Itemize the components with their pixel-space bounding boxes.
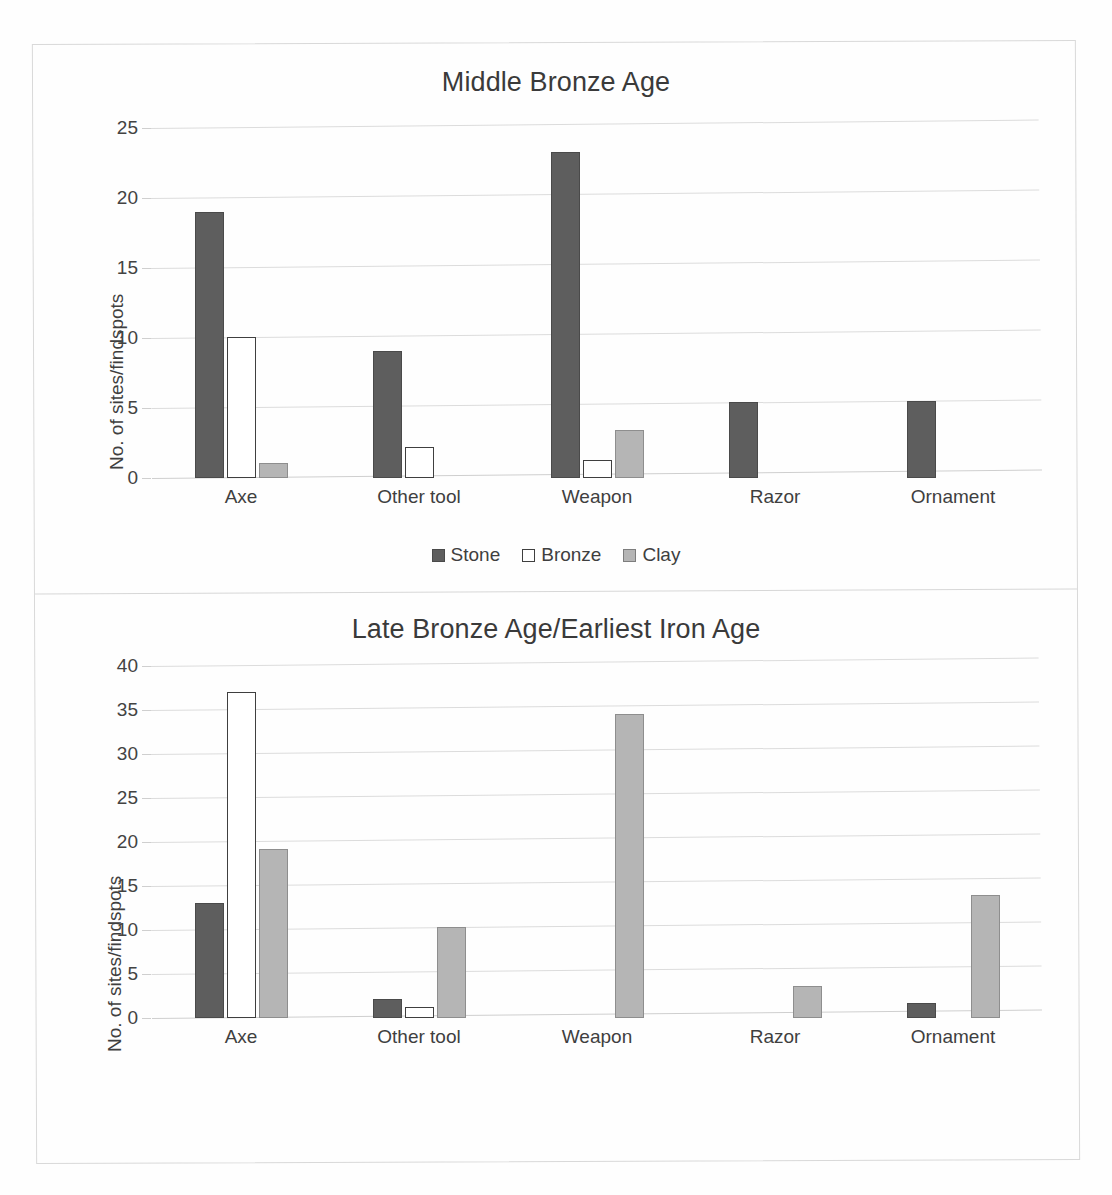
- bar-stone: [729, 402, 758, 478]
- y-axis-tick-mark: [142, 128, 151, 129]
- bar-stone: [195, 212, 224, 478]
- y-axis-tick-label: 35: [117, 699, 138, 721]
- bar-group: [330, 128, 508, 478]
- bar-bronze: [227, 692, 256, 1018]
- bar-clay: [793, 986, 822, 1018]
- y-axis-tick-mark: [142, 268, 151, 269]
- bars-layer: [152, 666, 1042, 1018]
- y-axis-tick-mark: [142, 710, 151, 711]
- y-axis-tick-label: 30: [117, 743, 138, 765]
- x-axis-label: Ornament: [864, 486, 1042, 508]
- y-axis-tick-label: 20: [117, 187, 138, 209]
- y-axis-tick-label: 20: [117, 831, 138, 853]
- legend-label: Clay: [642, 544, 680, 566]
- y-axis-tick-label: 5: [127, 397, 138, 419]
- y-axis-tick-label: 15: [117, 257, 138, 279]
- bar-group: [686, 666, 864, 1018]
- y-axis-tick-mark: [142, 930, 151, 931]
- y-axis-tick-label: 0: [127, 1007, 138, 1029]
- x-axis-labels: AxeOther toolWeaponRazorOrnament: [152, 1026, 1042, 1048]
- y-axis-tick-label: 40: [117, 655, 138, 677]
- x-axis-label: Ornament: [864, 1026, 1042, 1048]
- bar-stone: [373, 999, 402, 1018]
- y-axis-tick-mark: [142, 198, 151, 199]
- y-axis-tick-label: 10: [117, 327, 138, 349]
- y-axis-tick-label: 10: [117, 919, 138, 941]
- plot-area: 0510152025303540: [152, 666, 1042, 1018]
- y-axis-tick-mark: [142, 798, 151, 799]
- bar-clay: [615, 430, 644, 478]
- bar-clay: [437, 927, 466, 1018]
- bar-clay: [259, 463, 288, 478]
- y-axis-title: No. of sites/findspots: [104, 876, 126, 1052]
- x-axis-label: Weapon: [508, 1026, 686, 1048]
- chart-legend: StoneBronzeClay: [34, 544, 1078, 566]
- legend-item-bronze: Bronze: [522, 544, 601, 566]
- bar-clay: [615, 714, 644, 1018]
- bar-group: [508, 666, 686, 1018]
- bar-bronze: [405, 447, 434, 478]
- x-axis-label: Axe: [152, 486, 330, 508]
- x-axis-label: Razor: [686, 486, 864, 508]
- bar-group: [330, 666, 508, 1018]
- bar-clay: [259, 849, 288, 1018]
- x-axis-label: Other tool: [330, 1026, 508, 1048]
- bar-group: [864, 666, 1042, 1018]
- bar-group: [686, 128, 864, 478]
- bar-clay: [971, 895, 1000, 1018]
- y-axis-tick-label: 25: [117, 787, 138, 809]
- bars-layer: [152, 128, 1042, 478]
- chart-title: Late Bronze Age/Earliest Iron Age: [34, 614, 1078, 645]
- y-axis-tick-label: 25: [117, 117, 138, 139]
- bar-group: [508, 128, 686, 478]
- y-axis-tick-label: 5: [127, 963, 138, 985]
- x-axis-labels: AxeOther toolWeaponRazorOrnament: [152, 486, 1042, 508]
- y-axis-tick-mark: [142, 886, 151, 887]
- y-axis-tick-mark: [142, 974, 151, 975]
- y-axis-tick-mark: [142, 478, 151, 479]
- y-axis-tick-mark: [142, 1018, 151, 1019]
- y-axis-tick-mark: [142, 666, 151, 667]
- x-axis-label: Other tool: [330, 486, 508, 508]
- legend-label: Bronze: [541, 544, 601, 566]
- bar-group: [152, 666, 330, 1018]
- y-axis-title: No. of sites/findspots: [106, 294, 128, 470]
- bar-bronze: [227, 337, 256, 478]
- legend-swatch-bronze-icon: [522, 549, 535, 562]
- x-axis-label: Weapon: [508, 486, 686, 508]
- legend-item-stone: Stone: [432, 544, 501, 566]
- y-axis-tick-mark: [142, 338, 151, 339]
- bar-group: [864, 128, 1042, 478]
- bar-bronze: [583, 460, 612, 478]
- scanned-figure-page: Middle Bronze Age No. of sites/findspots…: [0, 0, 1112, 1195]
- bar-stone: [907, 1003, 936, 1018]
- bar-bronze: [405, 1007, 434, 1018]
- plot-area: 0510152025: [152, 128, 1042, 478]
- y-axis-tick-label: 0: [127, 467, 138, 489]
- legend-label: Stone: [451, 544, 501, 566]
- chart-middle-bronze-age: Middle Bronze Age No. of sites/findspots…: [34, 42, 1078, 592]
- x-axis-label: Axe: [152, 1026, 330, 1048]
- bar-group: [152, 128, 330, 478]
- y-axis-tick-mark: [142, 842, 151, 843]
- legend-swatch-clay-icon: [623, 549, 636, 562]
- bar-stone: [195, 903, 224, 1018]
- bar-stone: [907, 401, 936, 478]
- chart-late-bronze-age: Late Bronze Age/Earliest Iron Age No. of…: [34, 592, 1078, 1162]
- chart-title: Middle Bronze Age: [34, 67, 1078, 98]
- y-axis-tick-mark: [142, 754, 151, 755]
- legend-swatch-stone-icon: [432, 549, 445, 562]
- legend-item-clay: Clay: [623, 544, 680, 566]
- bar-stone: [373, 351, 402, 478]
- y-axis-tick-mark: [142, 408, 151, 409]
- x-axis-label: Razor: [686, 1026, 864, 1048]
- bar-stone: [551, 152, 580, 478]
- y-axis-tick-label: 15: [117, 875, 138, 897]
